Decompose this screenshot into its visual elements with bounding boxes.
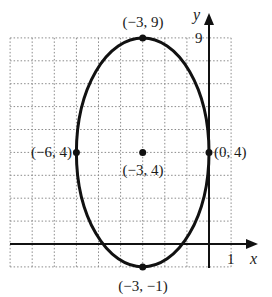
label-right-vertex: (0, 4)	[214, 144, 247, 161]
data-point	[139, 149, 146, 156]
label-center: (−3, 4)	[123, 162, 164, 179]
ellipse-graph: x y 1 9 (−3, 9) (−6, 4) (−3, 4) (0, 4) (…	[0, 0, 272, 297]
axes: x y 1 9	[10, 6, 258, 268]
y-tick-label-9: 9	[195, 30, 203, 46]
data-point	[139, 263, 146, 270]
y-axis-label: y	[191, 6, 201, 24]
label-bottom-vertex: (−3, −1)	[118, 278, 167, 295]
label-top-vertex: (−3, 9)	[123, 14, 164, 31]
x-tick-label-1: 1	[227, 251, 235, 267]
point-labels: (−3, 9) (−6, 4) (−3, 4) (0, 4) (−3, −1)	[31, 14, 246, 295]
data-point	[139, 34, 146, 41]
x-axis-arrow-icon	[246, 239, 258, 249]
y-axis-arrow-icon	[204, 13, 214, 25]
label-left-vertex: (−6, 4)	[31, 144, 72, 161]
data-point	[73, 149, 80, 156]
data-point	[206, 149, 213, 156]
x-axis-label: x	[249, 250, 257, 267]
